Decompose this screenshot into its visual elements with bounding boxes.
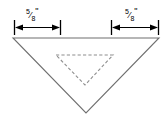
inner-triangle xyxy=(56,55,113,85)
outer-triangle xyxy=(13,38,159,113)
right-dimension-label: 5⁄8" xyxy=(125,7,138,22)
left-dimension-label: 5⁄8" xyxy=(26,7,39,22)
left-dimension-unit: " xyxy=(35,6,38,16)
right-dimension-unit: " xyxy=(134,6,137,16)
right-dimension-arrowhead-left xyxy=(112,25,120,31)
left-dimension-arrowhead-right xyxy=(52,25,60,31)
left-dimension-arrowhead-left xyxy=(15,25,23,31)
technical-drawing-canvas: 5⁄8" 5⁄8" xyxy=(0,0,167,119)
right-dimension-arrowhead-right xyxy=(150,25,158,31)
